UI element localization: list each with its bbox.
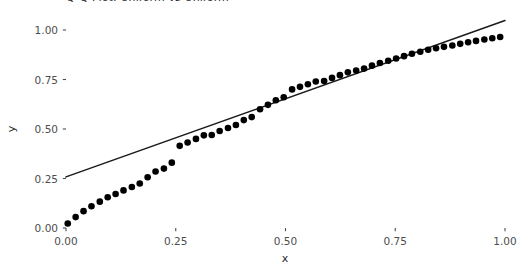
y-axis-title: y <box>5 126 18 133</box>
x-axis-title: x <box>282 252 289 265</box>
x-tick-label-1: 0.25 <box>164 235 187 247</box>
page-title: Q-Q Plot: Uniform vs Uniform <box>66 0 229 4</box>
x-tick-label-3: 0.75 <box>384 235 407 247</box>
qq-plot-figure: Q-Q Plot: Uniform vs Uniform 0.000.250.5… <box>0 0 531 279</box>
y-tick-label-3: 0.75 <box>12 74 58 86</box>
x-tick-label-4: 1.00 <box>493 235 516 247</box>
y-tick-label-1: 0.25 <box>12 173 58 185</box>
y-tick-label-4: 1.00 <box>12 24 58 36</box>
x-tick-label-2: 0.50 <box>274 235 297 247</box>
y-tick-label-0: 0.00 <box>12 222 58 234</box>
y-tick-label-2: 0.50 <box>12 123 58 135</box>
plot-panel <box>66 30 505 228</box>
x-tick-label-0: 0.00 <box>54 235 77 247</box>
